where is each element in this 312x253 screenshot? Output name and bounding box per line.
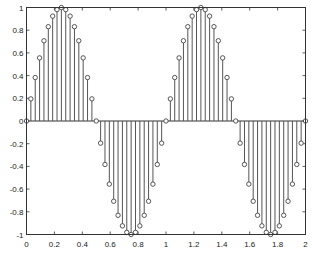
stem-marker	[90, 97, 94, 101]
stem-marker	[194, 7, 198, 11]
y-tick-label: -0.8	[10, 208, 24, 217]
stem-marker	[203, 7, 207, 11]
stem-marker	[94, 119, 98, 123]
stem-marker	[116, 213, 120, 217]
x-tick-label: 1.8	[272, 240, 284, 249]
x-tick-labels: 00.20.40.60.811.21.41.61.82	[24, 240, 308, 249]
stem-marker	[142, 213, 146, 217]
stem-marker	[120, 224, 124, 228]
y-tick-label: 0.6	[12, 49, 24, 58]
stem-marker	[282, 213, 286, 217]
stem-marker	[238, 141, 242, 145]
stem-marker	[290, 182, 294, 186]
stem-marker	[159, 141, 163, 145]
x-tick-label: 0.6	[105, 240, 117, 249]
stem-marker	[277, 224, 281, 228]
y-tick-label: -1	[16, 231, 24, 240]
x-tick-label: 0	[24, 240, 29, 249]
stem-marker	[50, 14, 54, 18]
y-tick-label: 0.2	[12, 94, 24, 103]
stem-marker	[81, 56, 85, 60]
stem-marker	[55, 7, 59, 11]
stem-marker	[107, 182, 111, 186]
stem-marker	[247, 182, 251, 186]
stem-marker	[242, 162, 246, 166]
stem-marker	[212, 24, 216, 28]
stem-marker	[103, 162, 107, 166]
stem-marker	[164, 119, 168, 123]
stem-marker	[33, 75, 37, 79]
stem-plot: 00.20.40.60.811.21.41.61.82 10.80.60.40.…	[0, 0, 312, 253]
stem-marker	[216, 39, 220, 43]
stem-marker	[186, 24, 190, 28]
stem-marker	[299, 141, 303, 145]
x-tick-label: 2	[303, 240, 308, 249]
stem-marker	[234, 119, 238, 123]
y-tick-label: 1	[19, 4, 24, 13]
y-tick-label: -0.2	[10, 140, 24, 149]
x-tick-label: 1.2	[188, 240, 200, 249]
stem-marker	[295, 162, 299, 166]
stem-marker	[251, 199, 255, 203]
stem-marker	[46, 24, 50, 28]
stem-marker	[98, 141, 102, 145]
stem-marker	[155, 162, 159, 166]
stem-marker	[77, 39, 81, 43]
stem-marker	[168, 97, 172, 101]
stem-marker	[229, 97, 233, 101]
stem-marker	[42, 39, 46, 43]
x-tick-label: 0.4	[77, 240, 89, 249]
x-tick-label: 0.8	[133, 240, 145, 249]
y-tick-label: 0.4	[12, 72, 24, 81]
stem-marker	[255, 213, 259, 217]
stem-marker	[37, 56, 41, 60]
x-tick-label: 1.4	[216, 240, 228, 249]
stem-marker	[220, 56, 224, 60]
stem-marker	[273, 230, 277, 234]
stem-marker	[125, 230, 129, 234]
stem-marker	[68, 14, 72, 18]
stem-marker	[173, 75, 177, 79]
y-tick-label: -0.4	[10, 162, 24, 171]
stem-marker	[225, 75, 229, 79]
stem-marker	[133, 230, 137, 234]
stem-marker	[286, 199, 290, 203]
stem-marker	[264, 230, 268, 234]
stem-marker	[72, 24, 76, 28]
x-tick-label: 1.6	[244, 240, 256, 249]
stem-marker	[138, 224, 142, 228]
stem-marker	[64, 7, 68, 11]
stem-marker	[85, 75, 89, 79]
y-tick-label: 0	[19, 117, 24, 126]
x-tick-label: 0.2	[49, 240, 61, 249]
y-tick-labels: 10.80.60.40.20-0.2-0.4-0.6-0.8-1	[10, 4, 24, 240]
stem-marker	[146, 199, 150, 203]
stem-marker	[177, 56, 181, 60]
stem-marker	[260, 224, 264, 228]
y-tick-label: -0.6	[10, 185, 24, 194]
y-tick-label: 0.8	[12, 26, 24, 35]
x-tick-label: 1	[164, 240, 169, 249]
stem-marker	[29, 97, 33, 101]
stem-marker	[111, 199, 115, 203]
stem-marker	[151, 182, 155, 186]
stem-marker	[207, 14, 211, 18]
stem-marker	[181, 39, 185, 43]
stem-marker	[190, 14, 194, 18]
